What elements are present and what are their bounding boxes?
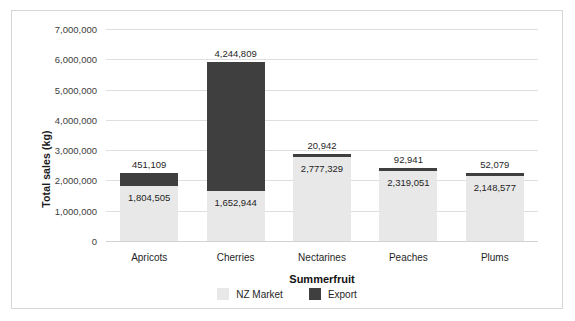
stacked-bar[interactable] xyxy=(207,62,265,241)
x-axis-title: Summerfruit xyxy=(106,273,538,285)
y-axis-tick-label: 0 xyxy=(92,236,97,247)
y-axis-tick-label: 3,000,000 xyxy=(55,145,97,156)
data-label-export: 52,079 xyxy=(480,159,509,170)
bar-group[interactable]: 451,1091,804,505Apricots xyxy=(120,29,178,241)
y-axis-tick-label: 2,000,000 xyxy=(55,175,97,186)
y-axis-tick-label: 5,000,000 xyxy=(55,84,97,95)
x-axis-category-label: Plums xyxy=(481,252,509,263)
data-label-nz-market: 1,652,944 xyxy=(214,197,256,208)
plot-area: 01,000,0002,000,0003,000,0004,000,0005,0… xyxy=(106,29,538,241)
x-axis-category-label: Nectarines xyxy=(298,252,346,263)
bar-group[interactable]: 52,0792,148,577Plums xyxy=(466,29,524,241)
y-axis-tick-label: 6,000,000 xyxy=(55,54,97,65)
legend-label: NZ Market xyxy=(236,289,283,300)
data-label-export: 451,109 xyxy=(132,159,166,170)
legend-item[interactable]: Export xyxy=(309,288,357,300)
x-axis-category-label: Cherries xyxy=(217,252,255,263)
bar-group[interactable]: 20,9422,777,329Nectarines xyxy=(293,29,351,241)
gridline xyxy=(106,241,538,242)
legend-swatch xyxy=(217,288,229,300)
data-label-nz-market: 2,148,577 xyxy=(474,182,516,193)
data-label-nz-market: 2,319,051 xyxy=(387,177,429,188)
chart-legend: NZ MarketExport xyxy=(12,288,562,300)
y-axis-tick-label: 4,000,000 xyxy=(55,114,97,125)
bar-segment-export[interactable] xyxy=(120,173,178,187)
data-label-nz-market: 1,804,505 xyxy=(128,192,170,203)
chart-container: Total sales (kg) 01,000,0002,000,0003,00… xyxy=(11,10,563,309)
data-label-nz-market: 2,777,329 xyxy=(301,163,343,174)
data-label-export: 4,244,809 xyxy=(214,48,256,59)
y-axis-tick-label: 7,000,000 xyxy=(55,24,97,35)
bar-segment-export[interactable] xyxy=(466,173,524,176)
bar-segment-export[interactable] xyxy=(379,168,437,171)
bar-group[interactable]: 92,9412,319,051Peaches xyxy=(379,29,437,241)
stacked-bar[interactable] xyxy=(120,173,178,241)
bar-group[interactable]: 4,244,8091,652,944Cherries xyxy=(207,29,265,241)
legend-item[interactable]: NZ Market xyxy=(217,288,283,300)
y-axis-title: Total sales (kg) xyxy=(40,99,52,239)
x-axis-category-label: Apricots xyxy=(131,252,167,263)
legend-swatch xyxy=(309,288,321,300)
legend-label: Export xyxy=(328,289,357,300)
x-axis-category-label: Peaches xyxy=(389,252,428,263)
y-axis-tick-label: 1,000,000 xyxy=(55,205,97,216)
bar-segment-export[interactable] xyxy=(207,62,265,191)
bar-segment-export[interactable] xyxy=(293,154,351,157)
data-label-export: 92,941 xyxy=(394,154,423,165)
data-label-export: 20,942 xyxy=(307,140,336,151)
